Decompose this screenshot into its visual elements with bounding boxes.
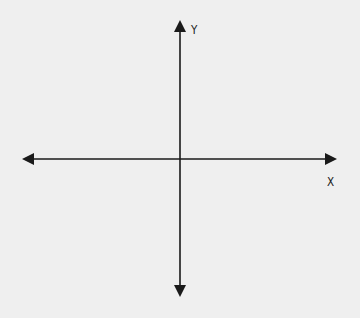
axes-graphic [0,0,360,318]
y-axis-down-arrow-icon [174,285,186,297]
coordinate-axes-diagram: Y X [0,0,360,318]
y-axis-label: Y [191,23,197,36]
x-axis-left-arrow-icon [22,153,34,165]
y-axis-up-arrow-icon [174,20,186,32]
x-axis-right-arrow-icon [325,153,337,165]
x-axis-label: X [327,175,334,188]
